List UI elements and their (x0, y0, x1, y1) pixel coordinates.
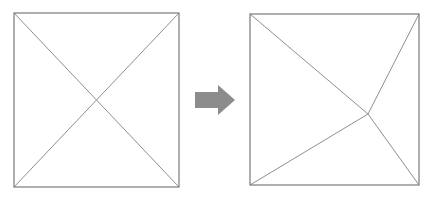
right-square-corner-line-2 (368, 114, 419, 185)
right-square-corner-line-0 (250, 14, 368, 114)
left-square-corner-line-3 (14, 100, 97, 187)
diagram-canvas (0, 0, 431, 197)
squares-transformation-diagram (0, 0, 431, 197)
right-square-corner-line-3 (250, 114, 368, 185)
right-arrow-icon (195, 85, 235, 115)
left-square-corner-line-1 (97, 13, 180, 100)
left-square-corner-line-2 (97, 100, 180, 187)
right-square-outline (250, 14, 419, 185)
right-square-corner-line-1 (368, 14, 419, 114)
left-square-corner-line-0 (14, 13, 97, 100)
